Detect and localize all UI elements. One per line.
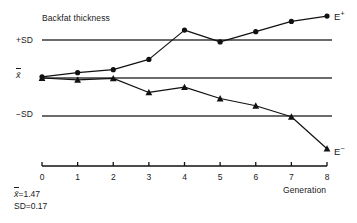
data-point-circle	[146, 57, 151, 62]
series-lines-group	[39, 13, 331, 151]
x-axis-tick-label: 0	[35, 172, 49, 182]
x-axis-title: Generation	[283, 186, 326, 195]
stat-sd: SD=0.17	[14, 200, 47, 212]
series-path	[42, 16, 327, 77]
x-axis-tick-label: 1	[71, 172, 85, 182]
reference-lines-group	[42, 40, 332, 116]
reference-label-plus-sd: +SD	[16, 36, 33, 45]
series-end-label-e-minus-sup: −	[340, 145, 344, 152]
data-point-circle	[324, 13, 329, 18]
stat-mean: x̄=1.47	[14, 188, 47, 200]
statistics-annotation: x̄=1.47 SD=0.17	[14, 188, 47, 212]
data-point-circle	[253, 29, 258, 34]
reference-label-minus-sd: −SD	[16, 110, 33, 119]
chart-figure: Backfat thickness +SD x̄ −SD E+ E− 01234…	[0, 0, 357, 223]
data-point-circle	[111, 67, 116, 72]
reference-label-mean: x̄	[16, 71, 21, 80]
series-end-label-e-plus: E+	[334, 12, 345, 22]
x-axis-tick-label: 3	[142, 172, 156, 182]
data-point-triangle	[181, 84, 188, 90]
series-e-minus	[39, 75, 331, 152]
mean-symbol: x̄	[16, 70, 21, 80]
x-axis-tick-label: 2	[106, 172, 120, 182]
chart-title: Backfat thickness	[42, 14, 110, 23]
data-point-circle	[182, 28, 187, 33]
stat-mean-symbol: x̄	[14, 189, 19, 199]
series-e-plus	[39, 13, 329, 79]
data-point-circle	[218, 39, 223, 44]
x-axis-group	[42, 162, 327, 166]
x-axis-tick-label: 6	[249, 172, 263, 182]
data-point-circle	[289, 19, 294, 24]
stat-sd-value: =0.17	[26, 201, 48, 211]
series-end-label-e-plus-sup: +	[340, 10, 344, 17]
x-axis-tick-label: 7	[284, 172, 298, 182]
x-axis-tick-label: 5	[213, 172, 227, 182]
data-point-circle	[75, 70, 80, 75]
stat-mean-value: =1.47	[19, 189, 41, 199]
x-axis-tick-label: 8	[320, 172, 334, 182]
series-end-label-e-minus: E−	[334, 147, 345, 157]
x-axis-tick-label: 4	[178, 172, 192, 182]
stat-sd-symbol: SD	[14, 201, 26, 211]
